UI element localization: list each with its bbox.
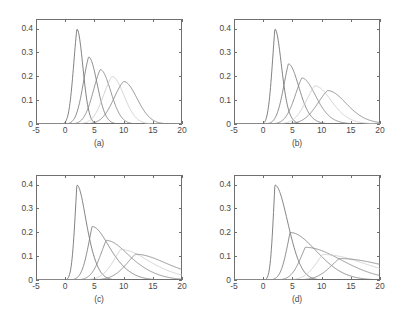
x-tick-mark-top	[351, 19, 352, 22]
x-tick-mark	[182, 121, 183, 124]
y-tick-mark-right	[179, 280, 182, 281]
x-tick-mark	[36, 277, 37, 280]
x-tick-mark-top	[263, 175, 264, 178]
x-tick-label: 15	[337, 126, 365, 135]
x-tick-mark-top	[292, 175, 293, 178]
panel-a-x-axis: -505101520	[0, 0, 198, 156]
y-tick-mark-right	[377, 52, 380, 53]
x-tick-label: 5	[278, 282, 306, 291]
y-tick-mark-right	[179, 185, 182, 186]
y-tick-mark-right	[377, 76, 380, 77]
y-tick-mark-right	[179, 100, 182, 101]
y-tick-mark-right	[377, 256, 380, 257]
x-tick-mark	[234, 121, 235, 124]
y-tick-mark-right	[179, 76, 182, 77]
x-tick-mark	[124, 121, 125, 124]
x-tick-label: -5	[220, 126, 248, 135]
panel-d-inner: 00.10.20.30.4 -505101520 (d)	[198, 156, 396, 312]
x-tick-mark	[322, 121, 323, 124]
panel-c-caption: (c)	[0, 294, 198, 304]
x-tick-mark-top	[322, 175, 323, 178]
x-tick-label: 15	[337, 282, 365, 291]
x-tick-label: 20	[168, 282, 196, 291]
x-tick-mark-top	[65, 175, 66, 178]
y-tick-mark-right	[377, 29, 380, 30]
x-tick-label: 10	[110, 126, 138, 135]
y-tick-mark-right	[179, 52, 182, 53]
x-tick-label: 15	[139, 126, 167, 135]
x-tick-mark-top	[124, 19, 125, 22]
x-tick-label: 5	[80, 126, 108, 135]
x-tick-mark	[65, 277, 66, 280]
panel-a: 00.10.20.30.4 -505101520 (a)	[0, 0, 198, 156]
x-tick-mark-top	[380, 175, 381, 178]
x-tick-label: 0	[51, 282, 79, 291]
x-tick-mark	[153, 277, 154, 280]
figure-canvas: 00.10.20.30.4 -505101520 (a) 00.10.20.30…	[0, 0, 396, 312]
x-tick-mark	[65, 121, 66, 124]
x-tick-mark-top	[36, 19, 37, 22]
x-tick-mark	[94, 277, 95, 280]
panel-b-x-axis: -505101520	[198, 0, 396, 156]
x-tick-label: 20	[366, 282, 394, 291]
panel-c-inner: 00.10.20.30.4 -505101520 (c)	[0, 156, 198, 312]
x-tick-mark-top	[263, 19, 264, 22]
x-tick-mark	[380, 277, 381, 280]
x-tick-label: -5	[22, 126, 50, 135]
x-tick-mark	[351, 121, 352, 124]
panel-c: 00.10.20.30.4 -505101520 (c)	[0, 156, 198, 312]
y-tick-mark-right	[179, 256, 182, 257]
x-tick-mark-top	[292, 19, 293, 22]
x-tick-mark-top	[234, 19, 235, 22]
x-tick-mark	[263, 277, 264, 280]
y-tick-mark-right	[179, 29, 182, 30]
x-tick-mark	[182, 277, 183, 280]
x-tick-mark	[94, 121, 95, 124]
x-tick-mark-top	[94, 19, 95, 22]
x-tick-mark-top	[124, 175, 125, 178]
y-tick-mark-right	[377, 124, 380, 125]
x-tick-mark-top	[36, 175, 37, 178]
x-tick-mark-top	[351, 175, 352, 178]
panel-d-caption: (d)	[198, 294, 396, 304]
panel-b-inner: 00.10.20.30.4 -505101520 (b)	[198, 0, 396, 156]
panel-b-caption: (b)	[198, 138, 396, 148]
y-tick-mark-right	[377, 185, 380, 186]
panel-d: 00.10.20.30.4 -505101520 (d)	[198, 156, 396, 312]
x-tick-mark	[351, 277, 352, 280]
x-tick-label: 20	[366, 126, 394, 135]
x-tick-label: 10	[110, 282, 138, 291]
x-tick-label: 15	[139, 282, 167, 291]
panel-b: 00.10.20.30.4 -505101520 (b)	[198, 0, 396, 156]
x-tick-mark-top	[380, 19, 381, 22]
x-tick-mark-top	[94, 175, 95, 178]
x-tick-label: 10	[308, 282, 336, 291]
x-tick-mark	[380, 121, 381, 124]
x-tick-mark	[124, 277, 125, 280]
x-tick-mark-top	[65, 19, 66, 22]
x-tick-label: 5	[278, 126, 306, 135]
x-tick-label: 5	[80, 282, 108, 291]
panel-a-inner: 00.10.20.30.4 -505101520 (a)	[0, 0, 198, 156]
x-tick-mark	[292, 277, 293, 280]
x-tick-label: 0	[51, 126, 79, 135]
x-tick-label: 20	[168, 126, 196, 135]
y-tick-mark-right	[377, 208, 380, 209]
x-tick-label: 10	[308, 126, 336, 135]
x-tick-mark-top	[322, 19, 323, 22]
x-tick-mark	[153, 121, 154, 124]
y-tick-mark-right	[179, 124, 182, 125]
x-tick-label: -5	[22, 282, 50, 291]
x-tick-mark-top	[153, 175, 154, 178]
x-tick-mark-top	[153, 19, 154, 22]
x-tick-mark-top	[234, 175, 235, 178]
panel-d-x-axis: -505101520	[198, 156, 396, 312]
y-tick-mark-right	[179, 208, 182, 209]
x-tick-mark	[263, 121, 264, 124]
panel-c-x-axis: -505101520	[0, 156, 198, 312]
x-tick-mark	[36, 121, 37, 124]
panel-a-caption: (a)	[0, 138, 198, 148]
x-tick-mark-top	[182, 175, 183, 178]
y-tick-mark-right	[377, 232, 380, 233]
x-tick-mark-top	[182, 19, 183, 22]
